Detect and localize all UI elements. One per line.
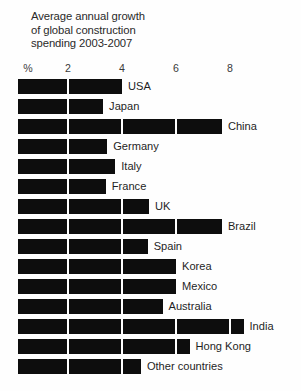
gridline <box>67 98 69 115</box>
bar-label-italy: Italy <box>121 159 141 174</box>
bar-track: Hong Kong <box>0 339 301 354</box>
bar-label-france: France <box>112 179 147 194</box>
bar-fill <box>18 339 190 354</box>
bar-fill <box>18 79 122 94</box>
x-axis-tick-4: 4 <box>119 62 125 74</box>
gridline <box>67 238 69 255</box>
bar-row: Spain <box>0 239 301 259</box>
x-axis-tick-2: 2 <box>65 62 71 74</box>
gridline <box>67 358 69 375</box>
gridline <box>175 218 177 235</box>
x-axis-tick-8: 8 <box>227 62 233 74</box>
gridline <box>121 118 123 135</box>
gridline <box>121 318 123 335</box>
x-axis-tick-labels: %2468 <box>0 62 301 78</box>
bar-row: Mexico <box>0 279 301 299</box>
gridline <box>67 118 69 135</box>
gridline <box>121 218 123 235</box>
bar-row: France <box>0 179 301 199</box>
bar-row: Japan <box>0 99 301 119</box>
bar-track: Japan <box>0 99 301 114</box>
gridline <box>67 318 69 335</box>
bar-row: Korea <box>0 259 301 279</box>
gridline <box>121 258 123 275</box>
bar-row: India <box>0 319 301 339</box>
bar-row: Germany <box>0 139 301 159</box>
gridline <box>121 298 123 315</box>
bar-fill <box>18 199 149 214</box>
bar-row: Brazil <box>0 219 301 239</box>
bar-track: China <box>0 119 301 134</box>
bar-fill <box>18 179 106 194</box>
gridline <box>121 358 123 375</box>
bar-label-usa: USA <box>128 79 151 94</box>
bar-fill <box>18 119 222 134</box>
gridline <box>175 118 177 135</box>
bar-fill <box>18 139 107 154</box>
bar-row: Hong Kong <box>0 339 301 359</box>
bar-track: Korea <box>0 259 301 274</box>
bar-fill <box>18 99 103 114</box>
bar-fill <box>18 299 163 314</box>
gridline <box>121 238 123 255</box>
bar-fill <box>18 319 244 334</box>
bar-track: Germany <box>0 139 301 154</box>
gridline <box>121 338 123 355</box>
bar-label-germany: Germany <box>113 139 159 154</box>
bar-label-mexico: Mexico <box>182 279 217 294</box>
gridline <box>67 338 69 355</box>
bar-fill <box>18 219 222 234</box>
gridline <box>229 318 231 335</box>
bar-label-australia: Australia <box>169 299 212 314</box>
gridline <box>175 338 177 355</box>
bar-track: UK <box>0 199 301 214</box>
gridline <box>67 78 69 95</box>
bar-track: Australia <box>0 299 301 314</box>
bar-label-hong-kong: Hong Kong <box>196 339 252 354</box>
gridline <box>67 138 69 155</box>
gridline <box>67 178 69 195</box>
gridline <box>175 318 177 335</box>
gridline <box>67 278 69 295</box>
bar-label-india: India <box>250 319 274 334</box>
gridline <box>67 198 69 215</box>
bar-row: Italy <box>0 159 301 179</box>
gridline <box>67 298 69 315</box>
bar-label-brazil: Brazil <box>228 219 256 234</box>
chart-title: Average annual growth of global construc… <box>31 10 281 51</box>
bar-fill <box>18 239 148 254</box>
bar-label-spain: Spain <box>154 239 182 254</box>
bar-track: Italy <box>0 159 301 174</box>
x-axis-unit-label: % <box>23 62 32 74</box>
gridline <box>121 278 123 295</box>
bar-track: France <box>0 179 301 194</box>
bar-label-japan: Japan <box>109 99 139 114</box>
plot-area: %2468 USAJapanChinaGermanyItalyFranceUKB… <box>0 62 301 387</box>
bar-list: USAJapanChinaGermanyItalyFranceUKBrazilS… <box>0 79 301 379</box>
bar-row: UK <box>0 199 301 219</box>
bar-track: India <box>0 319 301 334</box>
bar-track: USA <box>0 79 301 94</box>
bar-track: Spain <box>0 239 301 254</box>
bar-label-china: China <box>228 119 257 134</box>
bar-track: Mexico <box>0 279 301 294</box>
bar-label-uk: UK <box>155 199 170 214</box>
gridline <box>67 158 69 175</box>
bar-track: Other countries <box>0 359 301 374</box>
bar-label-korea: Korea <box>182 259 212 274</box>
x-axis-tick-6: 6 <box>173 62 179 74</box>
bar-fill <box>18 279 176 294</box>
chart-container: Average annual growth of global construc… <box>0 0 301 391</box>
gridline <box>121 198 123 215</box>
bar-track: Brazil <box>0 219 301 234</box>
bar-row: Other countries <box>0 359 301 379</box>
bar-row: USA <box>0 79 301 99</box>
bar-label-other-countries: Other countries <box>147 359 223 374</box>
bar-row: Australia <box>0 299 301 319</box>
gridline <box>67 258 69 275</box>
gridline <box>67 218 69 235</box>
bar-fill <box>18 259 176 274</box>
bar-row: China <box>0 119 301 139</box>
